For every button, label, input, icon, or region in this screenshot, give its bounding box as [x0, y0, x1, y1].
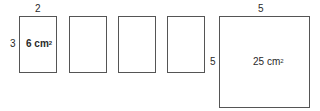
blank-rectangle-2	[118, 16, 156, 73]
small-rect-area: 6 cm2	[26, 39, 52, 49]
blank-rectangle-3	[167, 16, 205, 73]
square-width-label: 5	[258, 4, 264, 14]
square-area: 25 cm2	[253, 57, 284, 67]
square-height-label: 5	[210, 57, 216, 67]
small-rect-width-label: 2	[35, 4, 41, 14]
blank-rectangle-1	[69, 16, 107, 73]
small-rect-height-label: 3	[10, 39, 16, 49]
